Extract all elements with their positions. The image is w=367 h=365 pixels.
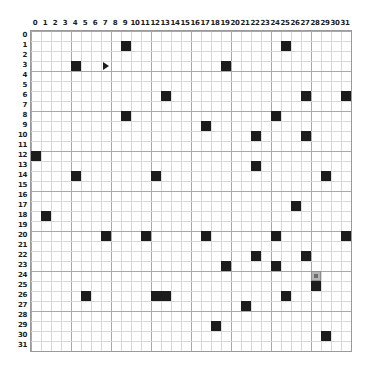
column-label-10: 10	[130, 17, 140, 29]
wall-cell[interactable]	[161, 291, 171, 301]
wall-cell[interactable]	[311, 281, 321, 291]
wall-cell[interactable]	[301, 131, 311, 141]
column-label-12: 12	[150, 17, 160, 29]
row-label-27: 27	[14, 300, 28, 310]
row-label-26: 26	[14, 290, 28, 300]
column-label-7: 7	[100, 17, 110, 29]
column-label-5: 5	[80, 17, 90, 29]
column-label-28: 28	[310, 17, 320, 29]
column-label-21: 21	[240, 17, 250, 29]
wall-cell[interactable]	[71, 61, 81, 71]
grid-world-app: 0123456789101112131415161718192021222324…	[0, 0, 367, 365]
wall-cell[interactable]	[251, 161, 261, 171]
column-header-axis: 0123456789101112131415161718192021222324…	[30, 17, 350, 29]
right-triangle-icon	[103, 62, 109, 70]
wall-cell[interactable]	[251, 251, 261, 261]
column-label-3: 3	[60, 17, 70, 29]
column-label-1: 1	[40, 17, 50, 29]
row-label-29: 29	[14, 320, 28, 330]
row-label-22: 22	[14, 250, 28, 260]
wall-cell[interactable]	[151, 171, 161, 181]
column-label-14: 14	[170, 17, 180, 29]
row-label-12: 12	[14, 150, 28, 160]
row-header-axis: 0123456789101112131415161718192021222324…	[14, 30, 28, 350]
row-label-18: 18	[14, 210, 28, 220]
wall-cell[interactable]	[241, 301, 251, 311]
column-label-20: 20	[230, 17, 240, 29]
wall-cell[interactable]	[161, 91, 171, 101]
wall-cell[interactable]	[301, 91, 311, 101]
column-label-15: 15	[180, 17, 190, 29]
wall-cell[interactable]	[201, 121, 211, 131]
column-label-11: 11	[140, 17, 150, 29]
wall-cell[interactable]	[151, 291, 161, 301]
row-label-21: 21	[14, 240, 28, 250]
row-label-16: 16	[14, 190, 28, 200]
row-label-1: 1	[14, 40, 28, 50]
column-label-17: 17	[200, 17, 210, 29]
cells-layer	[31, 31, 351, 351]
row-label-23: 23	[14, 260, 28, 270]
row-label-7: 7	[14, 100, 28, 110]
grid-board[interactable]	[30, 30, 352, 352]
wall-cell[interactable]	[341, 91, 351, 101]
column-label-4: 4	[70, 17, 80, 29]
wall-cell[interactable]	[271, 111, 281, 121]
goal-cell[interactable]	[311, 271, 321, 281]
wall-cell[interactable]	[321, 331, 331, 341]
wall-cell[interactable]	[141, 231, 151, 241]
row-label-2: 2	[14, 50, 28, 60]
wall-cell[interactable]	[281, 41, 291, 51]
wall-cell[interactable]	[341, 231, 351, 241]
column-label-9: 9	[120, 17, 130, 29]
agent-marker[interactable]	[101, 61, 111, 71]
wall-cell[interactable]	[271, 231, 281, 241]
column-label-31: 31	[340, 17, 350, 29]
wall-cell[interactable]	[271, 261, 281, 271]
row-label-13: 13	[14, 160, 28, 170]
row-label-3: 3	[14, 60, 28, 70]
column-label-22: 22	[250, 17, 260, 29]
wall-cell[interactable]	[211, 321, 221, 331]
column-label-24: 24	[270, 17, 280, 29]
row-label-9: 9	[14, 120, 28, 130]
wall-cell[interactable]	[101, 231, 111, 241]
row-label-6: 6	[14, 90, 28, 100]
column-label-30: 30	[330, 17, 340, 29]
row-label-10: 10	[14, 130, 28, 140]
row-label-19: 19	[14, 220, 28, 230]
row-label-17: 17	[14, 200, 28, 210]
wall-cell[interactable]	[41, 211, 51, 221]
column-label-2: 2	[50, 17, 60, 29]
column-label-16: 16	[190, 17, 200, 29]
column-label-26: 26	[290, 17, 300, 29]
wall-cell[interactable]	[301, 251, 311, 261]
wall-cell[interactable]	[121, 111, 131, 121]
wall-cell[interactable]	[221, 61, 231, 71]
column-label-8: 8	[110, 17, 120, 29]
wall-cell[interactable]	[221, 261, 231, 271]
wall-cell[interactable]	[81, 291, 91, 301]
column-label-19: 19	[220, 17, 230, 29]
wall-cell[interactable]	[251, 131, 261, 141]
row-label-28: 28	[14, 310, 28, 320]
row-label-0: 0	[14, 30, 28, 40]
column-label-18: 18	[210, 17, 220, 29]
row-label-15: 15	[14, 180, 28, 190]
row-label-31: 31	[14, 340, 28, 350]
row-label-20: 20	[14, 230, 28, 240]
wall-cell[interactable]	[121, 41, 131, 51]
column-label-27: 27	[300, 17, 310, 29]
wall-cell[interactable]	[31, 151, 41, 161]
column-label-0: 0	[30, 17, 40, 29]
wall-cell[interactable]	[71, 171, 81, 181]
wall-cell[interactable]	[321, 171, 331, 181]
row-label-30: 30	[14, 330, 28, 340]
row-label-5: 5	[14, 80, 28, 90]
column-label-6: 6	[90, 17, 100, 29]
column-label-13: 13	[160, 17, 170, 29]
wall-cell[interactable]	[291, 201, 301, 211]
wall-cell[interactable]	[201, 231, 211, 241]
row-label-4: 4	[14, 70, 28, 80]
wall-cell[interactable]	[281, 291, 291, 301]
